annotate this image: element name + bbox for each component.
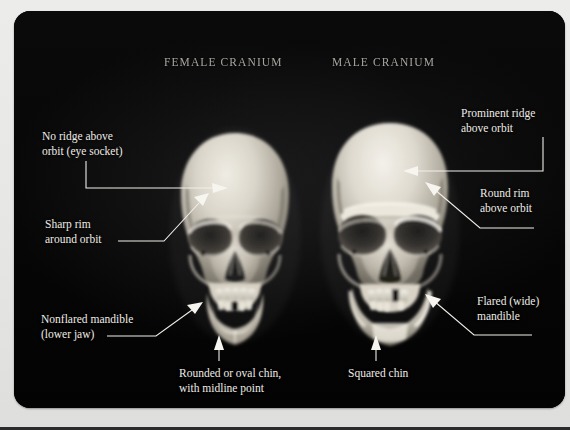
male-cranium-title: MALE CRANIUM — [332, 56, 435, 68]
callout-flared-wide-mandible: Flared (wide) mandible — [477, 294, 539, 323]
callout-sharp-rim-around-orbit: Sharp rim around orbit — [45, 217, 102, 246]
page-bottom-margin — [0, 430, 570, 443]
callout-no-ridge-above-orbit: No ridge above orbit (eye socket) — [42, 129, 122, 158]
figure-panel: FEMALE CRANIUM MALE CRANIUM — [14, 11, 565, 408]
female-cranium-title: FEMALE CRANIUM — [164, 56, 283, 68]
male-cranium-image — [310, 115, 470, 373]
page-root: FEMALE CRANIUM MALE CRANIUM — [0, 0, 570, 443]
callout-squared-chin: Squared chin — [348, 366, 408, 381]
female-cranium-image — [160, 125, 310, 373]
callout-rounded-or-oval-chin: Rounded or oval chin, with midline point — [179, 366, 281, 395]
callout-prominent-ridge-above-orbit: Prominent ridge above orbit — [461, 106, 535, 135]
callout-nonflared-mandible: Nonflared mandible (lower jaw) — [41, 312, 133, 341]
callout-round-rim-above-orbit: Round rim above orbit — [480, 186, 532, 215]
